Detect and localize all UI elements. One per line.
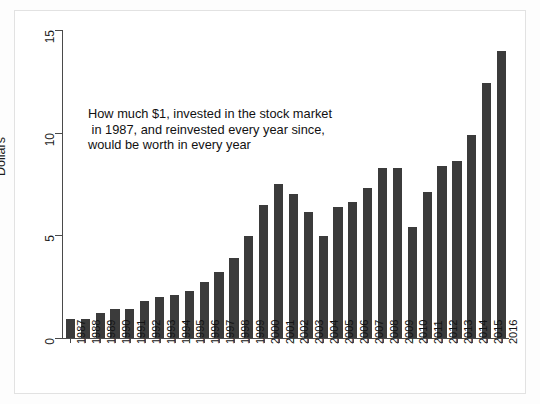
bar-2016 <box>497 51 506 338</box>
bar-2009 <box>393 168 402 338</box>
x-tick-label-2016: 2016 <box>507 320 519 344</box>
x-tick-1997 <box>219 339 220 343</box>
bar-series <box>63 30 509 338</box>
x-tick-1992 <box>145 339 146 343</box>
x-tick-2001 <box>279 339 280 343</box>
x-tick-2009 <box>398 339 399 343</box>
x-tick-2004 <box>323 339 324 343</box>
bar-2001 <box>274 184 283 338</box>
bar-2011 <box>423 192 432 338</box>
x-tick-1995 <box>189 339 190 343</box>
x-tick-2012 <box>442 339 443 343</box>
y-tick-label-0: 0 <box>43 338 57 360</box>
y-tick-label-15: 15 <box>43 30 57 52</box>
x-tick-2016 <box>502 339 503 343</box>
bar-2006 <box>348 202 357 338</box>
x-tick-1987 <box>70 339 71 343</box>
y-tick-label-5: 5 <box>43 235 57 257</box>
x-tick-2015 <box>487 339 488 343</box>
x-tick-1990 <box>115 339 116 343</box>
bar-1987 <box>66 319 75 339</box>
x-tick-1988 <box>85 339 86 343</box>
chart-canvas: 051015 Dollars 1987198819891990199119921… <box>0 0 540 404</box>
bar-2013 <box>452 161 461 338</box>
x-tick-2002 <box>293 339 294 343</box>
bar-2002 <box>289 194 298 338</box>
y-axis-label: Dollars <box>0 137 8 176</box>
bar-2008 <box>378 168 387 338</box>
x-tick-2000 <box>264 339 265 343</box>
x-tick-1996 <box>204 339 205 343</box>
bar-2005 <box>333 207 342 338</box>
x-tick-1993 <box>160 339 161 343</box>
x-tick-1994 <box>175 339 176 343</box>
chart-annotation: How much $1, invested in the stock marke… <box>88 106 332 153</box>
x-tick-2007 <box>368 339 369 343</box>
x-tick-2005 <box>338 339 339 343</box>
x-tick-2008 <box>383 339 384 343</box>
y-tick-label-10: 10 <box>43 133 57 155</box>
x-tick-2006 <box>353 339 354 343</box>
bar-2015 <box>482 83 491 338</box>
x-tick-1998 <box>234 339 235 343</box>
bar-2007 <box>363 188 372 338</box>
bar-2012 <box>437 166 446 338</box>
x-tick-2013 <box>457 339 458 343</box>
x-tick-2011 <box>427 339 428 343</box>
x-tick-2003 <box>308 339 309 343</box>
x-tick-1999 <box>249 339 250 343</box>
x-tick-1989 <box>100 339 101 343</box>
bar-2000 <box>259 205 268 338</box>
x-tick-1991 <box>130 339 131 343</box>
x-tick-2010 <box>412 339 413 343</box>
x-tick-2014 <box>472 339 473 343</box>
bar-2014 <box>467 135 476 338</box>
